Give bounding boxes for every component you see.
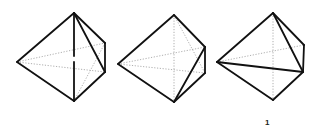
figure-number-label: 1: [265, 119, 269, 127]
polyhedra-diagram: [0, 0, 320, 129]
polyhedron-view-2: [118, 15, 205, 102]
polyhedron-view-3: [217, 13, 304, 100]
polyhedron-view-1: [17, 13, 105, 101]
